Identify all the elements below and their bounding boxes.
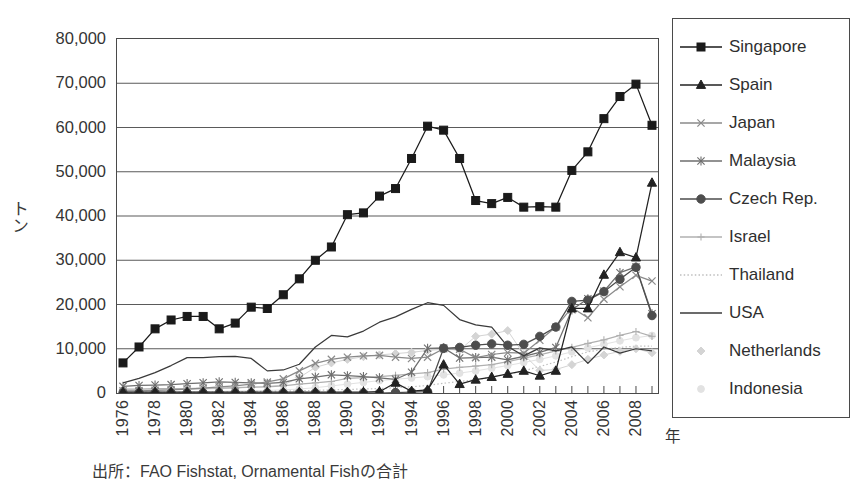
x-tick-label: 2002 bbox=[531, 400, 549, 436]
legend-key-icon bbox=[679, 379, 723, 399]
source-caption: 出所：FAO Fishstat, Ornamental Fishの合計 bbox=[92, 458, 408, 482]
legend-item-indonesia[interactable]: Indonesia bbox=[679, 371, 849, 407]
data-point-marker bbox=[697, 195, 705, 203]
legend-item-singapore[interactable]: Singapore bbox=[679, 29, 849, 65]
x-tick-label: 1984 bbox=[242, 400, 260, 436]
x-tick-label: 1980 bbox=[178, 400, 196, 436]
chart-figure: トン 010,00020,00030,00040,00050,00060,000… bbox=[0, 0, 858, 497]
x-tick-label: 1986 bbox=[274, 400, 292, 436]
data-point-marker bbox=[698, 386, 705, 393]
legend-key-icon bbox=[679, 75, 723, 95]
legend-item-label: Japan bbox=[729, 113, 775, 133]
legend-item-czech-rep[interactable]: Czech Rep. bbox=[679, 181, 849, 217]
legend-key-icon bbox=[679, 227, 723, 247]
x-tick-label: 1990 bbox=[338, 400, 356, 436]
x-tick-label: 1982 bbox=[210, 400, 228, 436]
x-tick-label: 1988 bbox=[306, 400, 324, 436]
legend-key-icon bbox=[679, 37, 723, 57]
legend-item-label: Israel bbox=[729, 227, 771, 247]
data-point-marker bbox=[696, 80, 705, 88]
legend-item-label: Indonesia bbox=[729, 379, 803, 399]
x-tick-label: 1992 bbox=[370, 400, 388, 436]
legend-key-icon bbox=[679, 189, 723, 209]
x-tick-label: 1998 bbox=[467, 400, 485, 436]
legend-item-label: Netherlands bbox=[729, 341, 821, 361]
x-axis-title: 年 bbox=[665, 424, 681, 446]
legend-item-netherlands[interactable]: Netherlands bbox=[679, 333, 849, 369]
data-point-marker bbox=[697, 347, 705, 355]
legend-item-usa[interactable]: USA bbox=[679, 295, 849, 331]
data-point-marker bbox=[697, 43, 705, 51]
x-tick-label: 1976 bbox=[114, 400, 132, 436]
legend-item-thailand[interactable]: Thailand bbox=[679, 257, 849, 293]
x-tick-label: 1996 bbox=[435, 400, 453, 436]
x-tick-label: 1978 bbox=[146, 400, 164, 436]
legend-item-malaysia[interactable]: Malaysia bbox=[679, 143, 849, 179]
data-point-marker bbox=[697, 233, 704, 240]
legend-key-icon bbox=[679, 341, 723, 361]
x-tick-label: 2008 bbox=[627, 400, 645, 436]
legend-item-label: Spain bbox=[729, 75, 772, 95]
legend-item-label: Czech Rep. bbox=[729, 189, 818, 209]
legend-key-icon bbox=[679, 265, 723, 285]
legend-item-label: Thailand bbox=[729, 265, 794, 285]
legend-item-label: USA bbox=[729, 303, 764, 323]
legend-item-spain[interactable]: Spain bbox=[679, 67, 849, 103]
legend-key-icon bbox=[679, 303, 723, 323]
legend-key-icon bbox=[679, 151, 723, 171]
legend-item-label: Singapore bbox=[729, 37, 807, 57]
x-tick-label: 2006 bbox=[595, 400, 613, 436]
legend-item-label: Malaysia bbox=[729, 151, 796, 171]
legend-key-icon bbox=[679, 113, 723, 133]
chart-legend: SingaporeSpainJapanMalaysiaCzech Rep.Isr… bbox=[672, 18, 850, 418]
x-tick-label: 1994 bbox=[403, 400, 421, 436]
x-tick-label: 2004 bbox=[563, 400, 581, 436]
legend-item-israel[interactable]: Israel bbox=[679, 219, 849, 255]
legend-item-japan[interactable]: Japan bbox=[679, 105, 849, 141]
x-tick-label: 2000 bbox=[499, 400, 517, 436]
